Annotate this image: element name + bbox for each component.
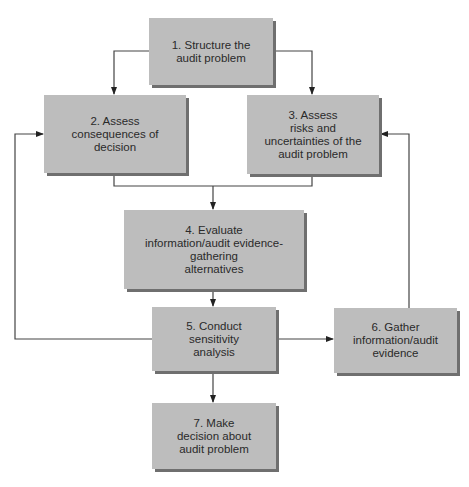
node-structure-problem: 1. Structure the audit problem [149,18,273,85]
edge-1-to-2 [114,51,149,94]
node-label: 1. Structure the audit problem [172,39,251,65]
node-assess-consequences: 2. Assess consequences of decision [44,95,186,173]
node-label: 7. Make decision about audit problem [177,417,251,456]
node-label: 5. Conduct sensitivity analysis [186,320,242,359]
node-label: 3. Assess risks and uncertainties of the… [264,109,361,161]
node-gather-evidence: 6. Gather information/audit evidence [334,308,457,373]
node-sensitivity-analysis: 5. Conduct sensitivity analysis [152,307,276,371]
edge-2-join [114,174,312,186]
node-evaluate-alternatives: 4. Evaluate information/audit evidence- … [124,210,304,289]
edge-1-to-3 [274,51,312,94]
node-label: 6. Gather information/audit evidence [353,321,438,360]
node-label: 2. Assess consequences of decision [72,115,159,154]
edge-6-to-3-feedback [381,134,409,308]
node-make-decision: 7. Make decision about audit problem [152,403,276,469]
node-assess-risks: 3. Assess risks and uncertainties of the… [247,95,379,174]
node-label: 4. Evaluate information/audit evidence- … [145,224,283,276]
